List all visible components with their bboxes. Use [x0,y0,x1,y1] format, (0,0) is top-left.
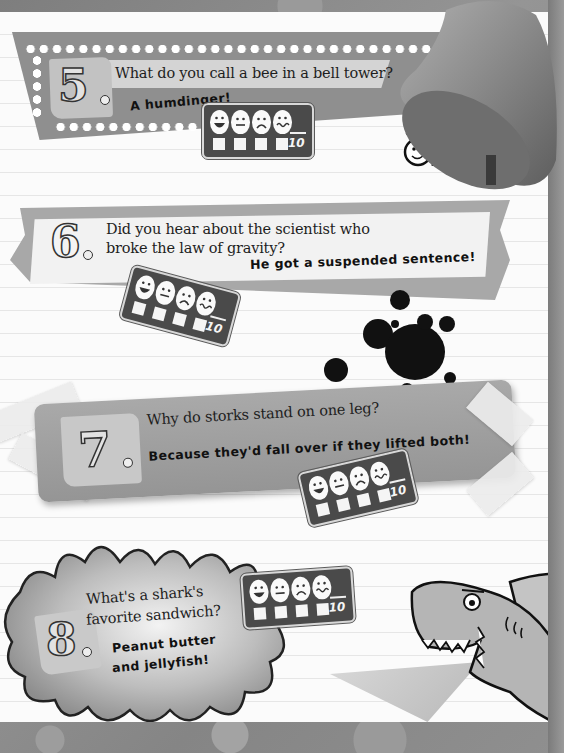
joke-question-line-1: Did you hear about the scientist who [106,220,370,238]
laughing-face-icon [210,110,229,134]
sad-face-icon [291,576,312,601]
neutral-face-icon [231,110,250,134]
joke-question: Why do storks stand on one leg? [146,399,379,429]
queasy-face-icon [273,110,292,134]
dot-border-top [24,42,434,56]
rating-checkbox-laugh[interactable] [132,301,147,316]
joke-answer: Because they'd fall over if they lifted … [148,432,470,464]
laughing-face-icon [307,474,331,502]
rating-board: 10 [202,103,314,159]
rating-checkbox-neutral[interactable] [275,606,288,619]
rating-checkbox-neutral[interactable] [152,307,167,322]
sad-face-icon [347,465,371,493]
rating-checkbox-sad[interactable] [172,312,187,327]
score-max: 10 [328,600,346,615]
bell-image [386,0,564,190]
joke-question-line-2: broke the law of gravity? [106,239,285,257]
number-dot [100,95,110,105]
joke-number: 6 [50,220,81,264]
rating-checkbox-neutral[interactable] [336,498,350,512]
laughing-face-icon [249,579,270,604]
neutral-face-icon [327,469,351,497]
score-max: 10 [288,136,305,150]
rating-checkbox-sad[interactable] [255,138,267,150]
rating-board: 10 [240,566,356,630]
score-blank[interactable] [290,132,306,134]
joke-question: What do you call a bee in a bell tower? [115,64,393,82]
dot-border-bottom [54,120,204,134]
sad-face-icon [252,110,271,134]
score-blank[interactable] [330,596,346,599]
joke-number: 5 [58,64,89,108]
number-dot [82,647,92,657]
queasy-face-icon [368,460,392,488]
joke-7-banner: 7 Why do storks stand on one leg? Becaus… [34,380,516,503]
joke-number: 7 [77,425,113,475]
rating-checkbox-laugh[interactable] [254,607,267,620]
rating-checkbox-sad[interactable] [295,604,308,617]
rating-checkbox-laugh[interactable] [316,502,330,516]
dot-border-left [30,54,44,120]
number-dot [83,250,93,260]
rating-checkbox-queasy[interactable] [276,138,288,150]
rating-checkbox-laugh[interactable] [213,138,225,150]
queasy-face-icon [194,290,219,318]
score-max: 10 [204,319,224,337]
rating-checkbox-queasy[interactable] [316,603,329,616]
joke-number: 8 [46,618,77,662]
rating-checkbox-sad[interactable] [357,493,371,507]
score-max: 10 [388,482,407,499]
neutral-face-icon [270,578,291,603]
rating-checkbox-neutral[interactable] [234,138,246,150]
shark-illustration [400,552,548,722]
